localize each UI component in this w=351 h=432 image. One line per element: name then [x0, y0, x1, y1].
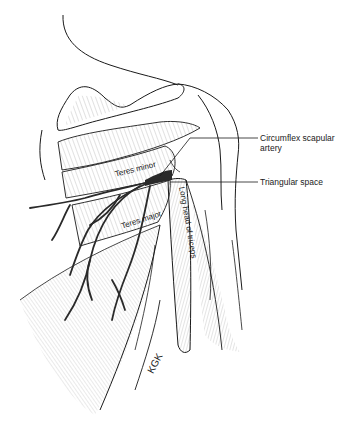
latissimus-muscle: [20, 225, 160, 415]
neck-outline: [63, 15, 178, 85]
anatomy-illustration: Circumflex scapular artery Triangular sp…: [0, 0, 351, 432]
label-circumflex-scapular-artery: Circumflex scapular artery: [260, 133, 335, 153]
shoulder-drawing: [0, 0, 351, 432]
label-line-2: artery: [260, 143, 335, 153]
label-triangular-space: Triangular space: [260, 177, 323, 187]
label-line-1: Circumflex scapular: [260, 133, 335, 143]
